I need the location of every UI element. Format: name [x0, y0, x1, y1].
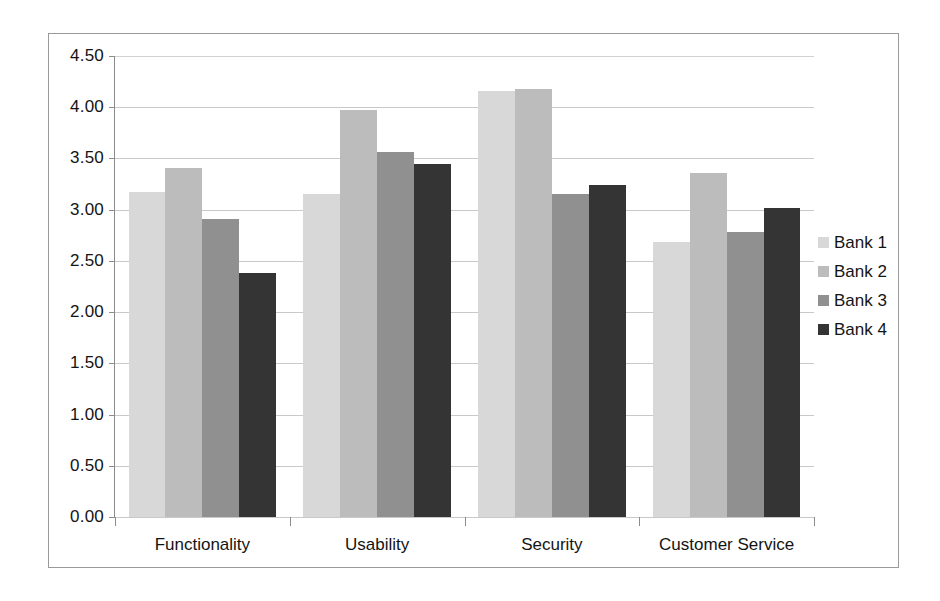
bar[interactable]: [303, 194, 340, 517]
chart-legend: Bank 1Bank 2Bank 3Bank 4: [818, 228, 923, 344]
y-axis-tick-label: 0.50: [70, 456, 104, 476]
x-axis-tick: [465, 517, 466, 526]
y-axis-tick-label: 1.50: [70, 353, 104, 373]
bar[interactable]: [653, 242, 690, 517]
bar[interactable]: [377, 152, 414, 517]
legend-item[interactable]: Bank 3: [818, 286, 923, 315]
legend-item-label: Bank 4: [834, 320, 887, 340]
legend-swatch-icon: [818, 266, 829, 277]
bar-group: [639, 56, 814, 517]
bar[interactable]: [202, 219, 239, 517]
x-axis-category-label: Functionality: [155, 535, 250, 555]
bar[interactable]: [478, 91, 515, 517]
y-axis-tick-label: 3.00: [70, 200, 104, 220]
bar[interactable]: [239, 273, 276, 517]
legend-item[interactable]: Bank 1: [818, 228, 923, 257]
bar[interactable]: [764, 208, 801, 517]
y-axis-tick-label: 4.50: [70, 46, 104, 66]
bar[interactable]: [165, 168, 202, 517]
legend-swatch-icon: [818, 295, 829, 306]
x-axis-category-label: Usability: [345, 535, 409, 555]
legend-item[interactable]: Bank 4: [818, 315, 923, 344]
legend-swatch-icon: [818, 237, 829, 248]
bar-group: [290, 56, 465, 517]
y-axis-tick-label: 2.50: [70, 251, 104, 271]
bar[interactable]: [690, 173, 727, 517]
chart-frame: 4.504.003.503.002.502.001.501.000.500.00…: [48, 33, 899, 568]
y-axis-tick-label: 4.00: [70, 97, 104, 117]
bar[interactable]: [340, 110, 377, 517]
plot-area: 4.504.003.503.002.502.001.501.000.500.00…: [114, 56, 814, 518]
y-axis-tick-label: 0.00: [70, 507, 104, 527]
x-axis-tick: [814, 517, 815, 526]
y-axis-tick-label: 1.00: [70, 405, 104, 425]
bar[interactable]: [515, 89, 552, 517]
x-axis-category-label: Customer Service: [659, 535, 794, 555]
x-axis-tick: [639, 517, 640, 526]
bar[interactable]: [552, 194, 589, 517]
bar[interactable]: [129, 192, 166, 517]
bar[interactable]: [414, 164, 451, 517]
bar-group: [465, 56, 640, 517]
x-axis-tick: [290, 517, 291, 526]
bar[interactable]: [589, 185, 626, 517]
bar-group: [115, 56, 290, 517]
y-axis-tick-label: 2.00: [70, 302, 104, 322]
bar[interactable]: [727, 232, 764, 517]
x-axis-tick: [115, 517, 116, 526]
legend-item-label: Bank 3: [834, 291, 887, 311]
legend-swatch-icon: [818, 324, 829, 335]
legend-item-label: Bank 2: [834, 262, 887, 282]
legend-item-label: Bank 1: [834, 233, 887, 253]
legend-item[interactable]: Bank 2: [818, 257, 923, 286]
x-axis-category-label: Security: [521, 535, 582, 555]
y-axis-tick-label: 3.50: [70, 148, 104, 168]
